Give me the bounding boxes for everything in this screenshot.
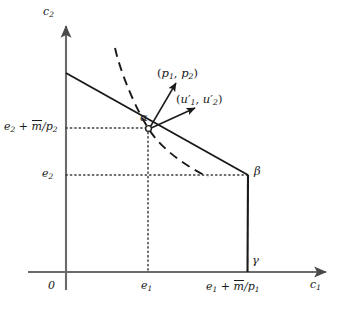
budget-constraint-vertical-segment: [248, 175, 249, 272]
point-label-alpha: α: [140, 112, 148, 124]
budget-constraint-line: [66, 73, 248, 175]
origin-label: 0: [48, 280, 55, 291]
price-vector-label: (p1, p2): [157, 68, 198, 81]
utility-gradient-vector-label: (u′1, u′2): [176, 94, 222, 107]
plot-canvas: [0, 0, 337, 320]
point-label-gamma: γ: [252, 255, 259, 267]
y-tick-label-e2-plus-m-over-p2: e2 + m/p2: [4, 120, 57, 134]
x-axis-label-sub: 1: [316, 283, 321, 292]
x-tick-label-e1-plus-m-over-p1: e1 + m/p1: [206, 280, 259, 294]
y-axis-label-sub: 2: [49, 10, 54, 19]
point-label-beta: β: [254, 166, 261, 178]
budget-constraint-figure: c2 c1 0 e2 + m/p2 e2 e1 e1 + m/p1 α β γ …: [0, 0, 337, 320]
y-axis-label: c2: [43, 6, 54, 19]
x-axis-label: c1: [310, 279, 321, 292]
x-tick-label-e1: e1: [141, 280, 152, 293]
y-tick-label-e2: e2: [42, 168, 53, 181]
alpha-point-marker: [146, 126, 152, 132]
